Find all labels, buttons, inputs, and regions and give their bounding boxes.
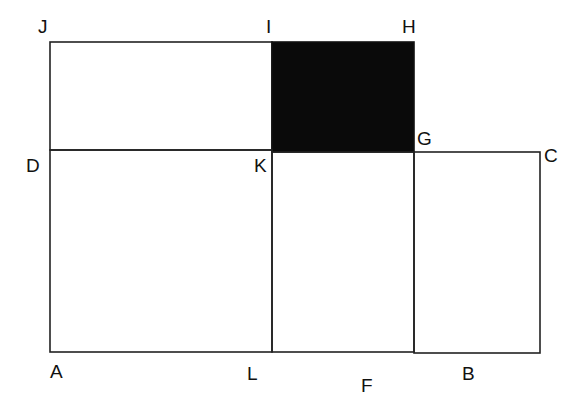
region-jikd [50,42,272,150]
label-h: H [402,16,416,37]
label-i: I [266,16,271,37]
label-j: J [38,16,48,37]
label-l: L [247,363,258,384]
label-g: G [417,128,432,149]
region-kgfl [272,152,414,352]
label-a: A [50,361,63,382]
label-f: F [361,375,373,396]
label-b: B [462,363,475,384]
label-d: D [26,155,40,176]
label-k: K [254,155,267,176]
region-gcbf [414,152,540,353]
region-ihgk [272,42,414,152]
label-c: C [544,145,558,166]
region-dkla [50,150,272,352]
geometry-diagram: J I H D K G C A L F B [0,0,583,414]
